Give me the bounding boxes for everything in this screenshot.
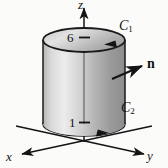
tick-label-1: 1 xyxy=(69,116,76,129)
diagram-canvas xyxy=(0,0,168,168)
cylinder-top-face xyxy=(43,28,125,52)
curve-label-c1-subscript: 1 xyxy=(128,24,133,34)
axis-label-y: y xyxy=(147,149,153,162)
curve-label-c2-subscript: 2 xyxy=(130,106,135,116)
axis-label-x: x xyxy=(6,150,12,163)
normal-vector-label: n xyxy=(147,57,155,71)
cylinder-flux-diagram: z x y C1 C2 n 6 1 xyxy=(0,0,168,168)
tick-label-6: 6 xyxy=(67,31,74,44)
curve-label-c1-letter: C xyxy=(119,18,128,33)
axis-label-z: z xyxy=(78,0,83,11)
curve-label-c2: C2 xyxy=(121,101,135,115)
curve-label-c2-letter: C xyxy=(121,100,130,115)
curve-label-c1: C1 xyxy=(119,19,133,33)
